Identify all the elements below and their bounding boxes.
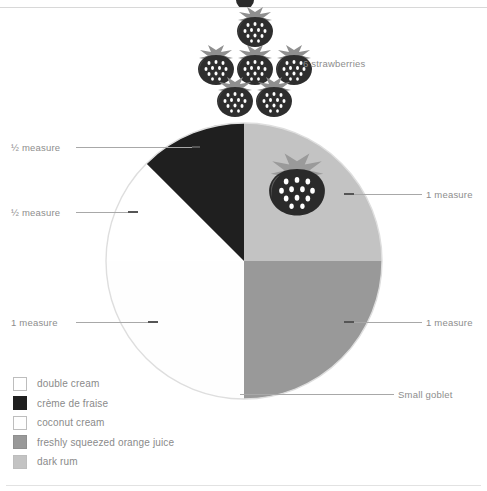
legend-label-double-cream: double cream <box>37 378 99 389</box>
leader-line-glassware <box>240 394 394 395</box>
strawberry-icon <box>237 7 273 47</box>
legend-item: dark rum <box>13 452 243 472</box>
legend-label-dark-rum: dark rum <box>37 456 78 467</box>
legend-label-creme-de-fraise: crème de fraise <box>37 398 108 409</box>
legend-swatch-double-cream <box>13 377 27 391</box>
leader-line-creme-de-fraise <box>76 212 132 213</box>
leader-line-dark-rum <box>348 194 422 195</box>
leader-tick-orange-juice <box>344 321 354 323</box>
callout-coconut-cream: 1 measure <box>11 317 58 328</box>
legend: double cream crème de fraise coconut cre… <box>13 374 243 472</box>
strawberry-motif-icon <box>269 154 325 216</box>
recipe-infographic: 6 strawberries <box>0 0 487 491</box>
leader-line-orange-juice <box>348 322 422 323</box>
pie-slice-orange-juice <box>244 261 382 399</box>
legend-item: coconut cream <box>13 413 243 433</box>
leader-tick-double-cream <box>192 146 200 148</box>
strawberry-icon <box>256 77 292 117</box>
legend-item: freshly squeezed orange juice <box>13 433 243 453</box>
callout-dark-rum: 1 measure <box>426 189 473 200</box>
strawberry-icon <box>217 77 253 117</box>
leader-line-double-cream <box>76 147 198 148</box>
leader-line-coconut-cream <box>76 322 156 323</box>
callout-orange-juice: 1 measure <box>426 317 473 328</box>
legend-swatch-coconut-cream <box>13 416 27 430</box>
leader-tick-dark-rum <box>344 193 354 195</box>
bottom-divider <box>6 485 481 486</box>
strawberry-pyramid-icon <box>195 6 315 118</box>
legend-label-coconut-cream: coconut cream <box>37 417 105 428</box>
legend-swatch-orange-juice <box>13 435 27 449</box>
legend-item: double cream <box>13 374 243 394</box>
strawberry-group <box>195 6 315 118</box>
leader-tick-coconut-cream <box>148 321 158 323</box>
legend-swatch-creme-de-fraise <box>13 396 27 410</box>
strawberry-count-label: 6 strawberries <box>303 58 365 69</box>
pie-chart <box>103 122 385 402</box>
legend-item: crème de fraise <box>13 394 243 414</box>
legend-swatch-dark-rum <box>13 455 27 469</box>
leader-tick-creme-de-fraise <box>128 211 138 213</box>
callout-creme-de-fraise: ½ measure <box>11 207 60 218</box>
legend-label-orange-juice: freshly squeezed orange juice <box>37 437 174 448</box>
callout-double-cream: ½ measure <box>11 142 60 153</box>
callout-glassware: Small goblet <box>398 389 453 400</box>
